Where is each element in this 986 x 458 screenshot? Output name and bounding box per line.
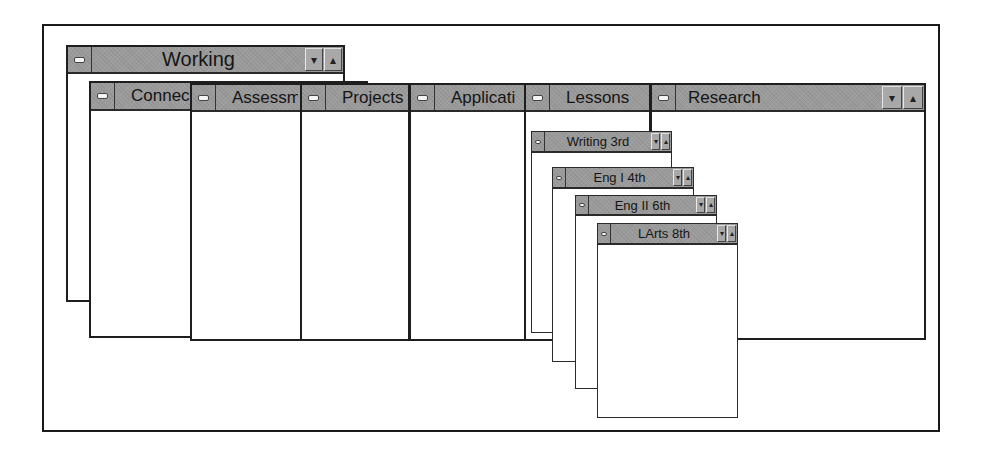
window-projects[interactable]: Projects (300, 83, 410, 341)
minimize-button[interactable]: ▾ (651, 133, 660, 150)
titlebar[interactable]: Research▾▴ (652, 85, 924, 112)
window-title: Writing 3rd (547, 132, 649, 151)
maximize-icon: ▴ (730, 230, 734, 238)
window-title: Lessons (552, 85, 647, 110)
system-menu-button[interactable] (526, 85, 550, 110)
minimize-icon: ▾ (699, 201, 703, 209)
maximize-button[interactable]: ▴ (706, 197, 715, 213)
window-title: Eng I 4th (568, 168, 671, 187)
maximize-icon: ▴ (664, 138, 668, 146)
minimize-icon: ▾ (676, 174, 680, 182)
system-menu-button[interactable] (302, 85, 326, 110)
window-title: Research (688, 85, 880, 110)
minimize-icon: ▾ (311, 54, 317, 66)
window-assessment[interactable]: Assessm (190, 83, 302, 341)
titlebar[interactable]: Eng II 6th▾▴ (576, 196, 716, 216)
window-title: LArts 8th (613, 224, 715, 243)
system-menu-icon (198, 95, 209, 101)
system-menu-icon (308, 95, 319, 101)
titlebar[interactable]: Eng I 4th▾▴ (553, 168, 693, 189)
window-client-area (302, 112, 408, 339)
system-menu-button[interactable] (91, 83, 115, 109)
minimize-button[interactable]: ▾ (882, 86, 902, 109)
titlebar[interactable]: Lessons (526, 85, 649, 112)
window-larts-8th[interactable]: LArts 8th▾▴ (597, 223, 738, 418)
maximize-icon: ▴ (686, 174, 690, 182)
titlebar[interactable]: Working▾▴ (68, 47, 343, 74)
minimize-button[interactable]: ▾ (673, 169, 682, 186)
minimize-icon: ▾ (720, 230, 724, 238)
titlebar[interactable]: Applicati (411, 85, 524, 112)
minimize-button[interactable]: ▾ (717, 225, 726, 242)
maximize-icon: ▴ (330, 54, 336, 66)
minimize-icon: ▾ (654, 138, 658, 146)
system-menu-button[interactable] (598, 224, 611, 243)
maximize-button[interactable]: ▴ (903, 86, 923, 109)
maximize-button[interactable]: ▴ (683, 169, 692, 186)
system-menu-icon (535, 140, 541, 144)
system-menu-icon (658, 95, 669, 101)
window-client-area (598, 245, 737, 417)
system-menu-button[interactable] (652, 85, 676, 110)
system-menu-button[interactable] (192, 85, 216, 110)
window-title: Projects (328, 85, 406, 110)
maximize-button[interactable]: ▴ (727, 225, 736, 242)
system-menu-icon (532, 95, 543, 101)
titlebar[interactable]: LArts 8th▾▴ (598, 224, 737, 245)
maximize-button[interactable]: ▴ (661, 133, 670, 150)
system-menu-icon (97, 93, 108, 99)
system-menu-icon (556, 176, 562, 180)
window-applications[interactable]: Applicati (409, 83, 526, 341)
titlebar[interactable]: Projects (302, 85, 408, 112)
system-menu-icon (579, 203, 585, 207)
window-title: Assessm (218, 85, 298, 110)
window-title: Applicati (437, 85, 522, 110)
system-menu-button[interactable] (532, 132, 545, 151)
minimize-button[interactable]: ▾ (305, 48, 323, 71)
window-client-area (192, 112, 300, 339)
titlebar[interactable]: Writing 3rd▾▴ (532, 132, 671, 153)
maximize-button[interactable]: ▴ (324, 48, 342, 71)
titlebar[interactable]: Assessm (192, 85, 300, 112)
system-menu-icon (417, 95, 428, 101)
system-menu-button[interactable] (553, 168, 566, 187)
window-client-area (411, 112, 524, 339)
system-menu-icon (601, 232, 607, 236)
system-menu-button[interactable] (68, 47, 92, 72)
minimize-icon: ▾ (889, 92, 895, 104)
window-title: Working (94, 47, 303, 72)
system-menu-button[interactable] (411, 85, 435, 110)
system-menu-icon (74, 57, 85, 63)
maximize-icon: ▴ (709, 201, 713, 209)
minimize-button[interactable]: ▾ (696, 197, 705, 213)
window-title: Eng II 6th (591, 196, 694, 214)
maximize-icon: ▴ (910, 92, 916, 104)
system-menu-button[interactable] (576, 196, 589, 214)
